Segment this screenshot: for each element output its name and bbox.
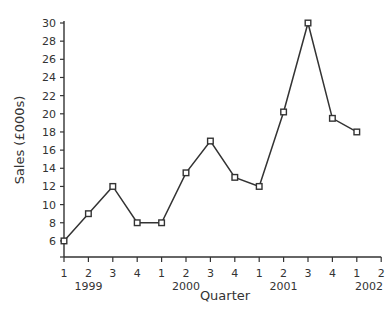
data-point-marker <box>110 184 116 190</box>
data-markers <box>61 20 359 244</box>
y-tick-label: 28 <box>42 35 56 48</box>
x-tick-label: 2 <box>85 267 92 280</box>
y-tick-label: 26 <box>42 53 56 66</box>
axes: 6810121416182022242628301234123412341219… <box>42 17 385 293</box>
sales-line-chart: 6810121416182022242628301234123412341219… <box>0 0 390 322</box>
data-point-marker <box>159 220 165 226</box>
x-tick-label: 2 <box>378 267 385 280</box>
data-point-marker <box>134 220 140 226</box>
data-point-marker <box>61 238 67 244</box>
y-tick-label: 12 <box>42 180 56 193</box>
y-axis-title: Sales (£000s) <box>12 96 27 185</box>
y-tick-label: 20 <box>42 108 56 121</box>
data-point-marker <box>208 138 214 144</box>
y-tick-label: 16 <box>42 144 56 157</box>
data-line <box>64 23 357 241</box>
y-tick-label: 8 <box>49 217 56 230</box>
data-point-marker <box>354 129 360 135</box>
data-point-marker <box>183 170 189 176</box>
y-tick-label: 6 <box>49 235 56 248</box>
data-point-marker <box>281 109 287 115</box>
y-tick-label: 30 <box>42 17 56 30</box>
y-tick-label: 24 <box>42 71 56 84</box>
x-tick-label: 2 <box>280 267 287 280</box>
data-point-marker <box>305 20 311 26</box>
y-tick-label: 18 <box>42 126 56 139</box>
x-tick-label: 4 <box>329 267 336 280</box>
year-label: 2001 <box>270 280 298 293</box>
x-tick-label: 1 <box>353 267 360 280</box>
x-tick-label: 4 <box>134 267 141 280</box>
x-tick-label: 3 <box>305 267 312 280</box>
data-point-marker <box>330 116 336 122</box>
sales-line <box>64 23 357 241</box>
x-axis-title: Quarter <box>200 288 251 303</box>
data-point-marker <box>232 175 238 181</box>
data-point-marker <box>86 211 92 217</box>
y-tick-label: 14 <box>42 162 56 175</box>
x-tick-label: 1 <box>256 267 263 280</box>
x-tick-label: 3 <box>109 267 116 280</box>
x-tick-label: 3 <box>207 267 214 280</box>
x-tick-label: 2 <box>183 267 190 280</box>
year-label: 2000 <box>172 280 200 293</box>
y-tick-label: 10 <box>42 199 56 212</box>
year-label: 2002 <box>355 280 383 293</box>
data-point-marker <box>256 184 262 190</box>
year-label: 1999 <box>74 280 102 293</box>
x-tick-label: 1 <box>61 267 68 280</box>
x-tick-label: 4 <box>231 267 238 280</box>
y-tick-label: 22 <box>42 90 56 103</box>
x-tick-label: 1 <box>158 267 165 280</box>
